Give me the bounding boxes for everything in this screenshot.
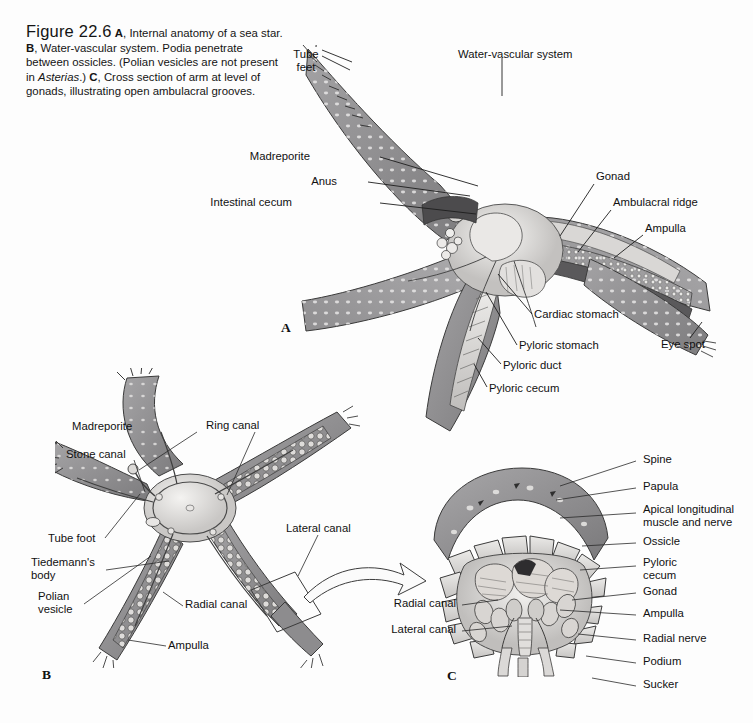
label-ring-canal: Ring canal: [206, 419, 259, 432]
label-anus: Anus: [247, 175, 337, 188]
label-ampulla-a: Ampulla: [645, 222, 686, 235]
label-pyloric-cecum-a: Pyloric cecum: [489, 382, 559, 395]
label-radial-canal-c: Radial canal: [366, 597, 456, 610]
label-cardiac-stomach: Cardiac stomach: [534, 308, 619, 321]
figure-number: Figure 22.6: [26, 22, 112, 40]
label-eye-spot: Eye spot: [661, 338, 705, 351]
label-tube-foot: Tube foot: [48, 532, 95, 545]
polian-vesicle-shape: [146, 518, 160, 527]
label-ampulla-b: Ampulla: [168, 639, 209, 652]
label-papula: Papula: [643, 480, 678, 493]
label-apical-longitudinal-muscle-and-nerve: Apical longitudinal muscle and nerve: [643, 503, 734, 529]
label-intestinal-cecum: Intestinal cecum: [142, 196, 292, 209]
panel-c-illustration: [418, 462, 633, 677]
panel-letter-b: B: [42, 667, 51, 683]
figure-22-6: Figure 22.6 A, Internal anatomy of a sea…: [0, 0, 753, 723]
label-tube-feet: Tube feet: [286, 48, 326, 74]
anus-shape: [446, 229, 455, 238]
label-pyloric-cecum-c: Pyloric cecum: [643, 556, 677, 582]
label-stone-canal: Stone canal: [66, 448, 126, 461]
label-lateral-canal-b: Lateral canal: [286, 522, 351, 535]
label-ambulacral-ridge: Ambulacral ridge: [613, 196, 698, 209]
label-madreporite-b: Madreporite: [72, 420, 132, 433]
label-gonad-c: Gonad: [643, 585, 677, 598]
label-spine: Spine: [643, 453, 672, 466]
label-gonad: Gonad: [596, 170, 630, 183]
label-sucker: Sucker: [643, 678, 678, 691]
label-ampulla-c: Ampulla: [643, 607, 684, 620]
figure-caption: Figure 22.6 A, Internal anatomy of a sea…: [26, 24, 286, 99]
label-polian-vesicle: Polian vesicle: [38, 590, 73, 616]
label-lateral-canal-c: Lateral canal: [366, 623, 456, 636]
label-radial-nerve: Radial nerve: [643, 632, 706, 645]
madreporite-shape-b: [128, 464, 138, 474]
label-tiedemanns-body: Tiedemann's body: [31, 556, 95, 582]
label-pyloric-stomach: Pyloric stomach: [519, 339, 599, 352]
label-madreporite: Madreporite: [190, 150, 310, 163]
panel-letter-a: A: [281, 320, 291, 336]
label-radial-canal-b: Radial canal: [185, 598, 247, 611]
panel-letter-c: C: [447, 668, 457, 684]
label-ossicle: Ossicle: [643, 535, 680, 548]
label-pyloric-duct: Pyloric duct: [503, 359, 561, 372]
label-water-vascular-system: Water-vascular system: [458, 48, 572, 61]
panel-b-illustration: [55, 368, 375, 668]
label-podium: Podium: [643, 655, 681, 668]
